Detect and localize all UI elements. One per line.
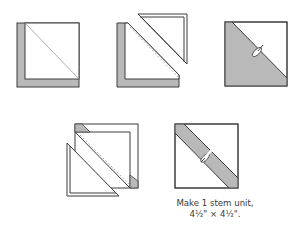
step-1-square-with-l-strip: [17, 23, 79, 87]
caption-line-2: 4½" × 4½".: [160, 209, 270, 220]
caption-line-1: Make 1 stem unit,: [160, 198, 270, 209]
step-4-corner-triangles-square: [67, 124, 138, 196]
figure-caption: Make 1 stem unit, 4½" × 4½".: [160, 198, 270, 219]
step-5-stem-unit: [175, 124, 238, 188]
step-2-separated-pieces: [117, 14, 187, 87]
step-3-half-square-triangle: [225, 22, 287, 86]
